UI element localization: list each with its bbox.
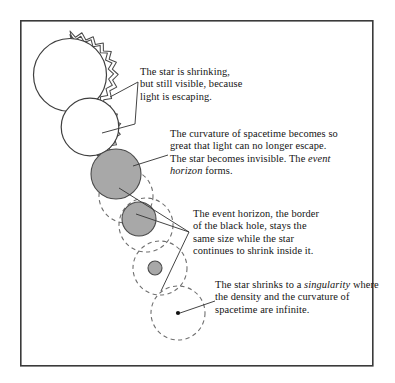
caption-4-italic-term: singularity [304,279,350,290]
caption-4-text-before: The star shrinks to a [215,279,304,290]
collapsed-star-3 [91,149,141,199]
diagram-canvas [0,0,395,383]
collapsed-star-5 [148,261,162,275]
caption-event-horizon-forms: The curvature of spacetime becomes so gr… [170,128,338,177]
caption-2-text-after: forms. [202,165,232,176]
singularity-point [176,311,180,315]
caption-star-shrinking: The star is shrinking, but still visible… [140,66,300,103]
caption-singularity: The star shrinks to a singularity where … [215,279,383,316]
caption-horizon-stays-same-size: The event horizon, the border of the bla… [193,208,365,257]
black-hole-formation-figure: The star is shrinking, but still visible… [0,0,395,383]
star-body-2 [61,98,119,156]
